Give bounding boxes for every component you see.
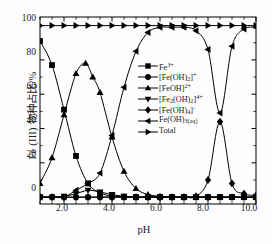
data-point: [122, 22, 128, 29]
data-point: [194, 22, 200, 29]
data-point: [192, 27, 198, 34]
data-point: [86, 22, 92, 29]
data-point: [121, 168, 128, 174]
legend-marker-diamond-icon: [138, 105, 158, 115]
data-point: [110, 22, 116, 29]
data-point: [85, 193, 91, 201]
data-point: [38, 22, 44, 29]
data-point: [36, 194, 42, 201]
data-point: [134, 22, 140, 29]
data-point: [146, 22, 152, 29]
data-point: [229, 179, 235, 187]
chart-figure: Fe (III) 物种占比/% 100 80 60 40 20 0 2.0 4.…: [0, 0, 272, 244]
data-point: [62, 22, 68, 29]
legend-marker-square-icon: [138, 61, 158, 71]
legend-item-Fe(OH)3(aq)[interactable]: Fe(OH)3(aq): [138, 115, 203, 126]
series-Total: [38, 22, 260, 29]
data-point: [50, 22, 56, 29]
data-point: [74, 22, 80, 29]
data-point: [206, 22, 212, 29]
data-point: [230, 22, 236, 29]
data-point: [98, 22, 104, 29]
legend-marker-triangle-left-icon: [138, 116, 158, 126]
data-point: [96, 170, 102, 177]
legend: Fe3+[Fe(OH)2]+[FeOH]2+[Fe2(OH)2]4+[Fe(OH…: [138, 61, 203, 137]
data-point: [216, 110, 222, 117]
data-point: [37, 180, 44, 186]
data-point: [218, 22, 224, 29]
legend-label: Total: [158, 126, 176, 137]
data-point: [82, 60, 89, 66]
data-point: [89, 73, 96, 79]
legend-item-Fe(OH)4-[interactable]: [Fe(OH)4]-: [138, 105, 203, 116]
data-point: [73, 153, 79, 159]
data-point: [49, 154, 56, 160]
legend-marker-triangle-down-icon: [138, 94, 158, 104]
legend-item-Total[interactable]: Total: [138, 126, 203, 137]
legend-marker-triangle-right-icon: [138, 127, 158, 137]
legend-label: Fe(OH)3(aq): [158, 115, 198, 127]
data-point: [37, 38, 43, 44]
legend-marker-triangle-up-icon: [138, 83, 158, 93]
data-point: [73, 70, 80, 76]
plot-area: [0, 0, 272, 244]
legend-marker-circle-icon: [138, 72, 158, 82]
data-point: [97, 89, 104, 95]
data-point: [254, 22, 260, 29]
data-point: [205, 176, 211, 184]
data-point: [49, 62, 55, 68]
